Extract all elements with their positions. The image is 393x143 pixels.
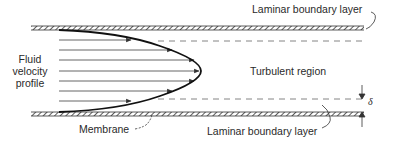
delta-dimension (359, 85, 365, 127)
fluid-velocity-profile-label: Fluid velocity profile (8, 53, 52, 89)
laminar-boundary-layer-bottom-label: Laminar boundary layer (207, 125, 317, 137)
profile-label-line1: Fluid (8, 53, 52, 65)
top-wall (31, 26, 364, 30)
flow-diagram (0, 0, 393, 143)
turbulent-region-label: Turbulent region (250, 65, 326, 77)
membrane-label: Membrane (79, 123, 129, 135)
laminar-boundary-layer-top-label: Laminar boundary layer (252, 3, 362, 15)
velocity-arrows (59, 40, 199, 101)
membrane-wall (31, 112, 364, 116)
bottom-laminar-leader (322, 105, 330, 128)
membrane-leader (135, 115, 152, 129)
top-laminar-leader (366, 12, 375, 29)
delta-thickness-label: δ (368, 96, 373, 108)
profile-label-line2: velocity (8, 65, 52, 77)
profile-label-line3: profile (8, 77, 52, 89)
